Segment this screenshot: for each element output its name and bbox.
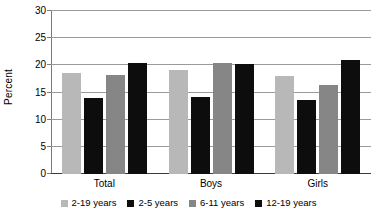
x-axis-category-labels: TotalBoysGirls [51,176,371,192]
bar [275,76,294,174]
bar [235,64,254,174]
bar [128,63,147,174]
legend-swatch-icon [189,200,196,207]
chart-legend: 2-19 years2-5 years6-11 years12-19 years [0,195,377,211]
y-axis-tick-label: 30 [2,10,46,11]
bar-group [158,11,265,174]
legend-item[interactable]: 12-19 years [255,197,316,209]
y-axis-tick-label: 10 [2,119,46,120]
legend-item[interactable]: 2-19 years [61,197,117,209]
bar [191,97,210,174]
legend-swatch-icon [255,200,262,207]
x-axis-category-label: Girls [264,176,371,192]
bar [62,73,81,174]
x-axis-category-label: Total [51,176,158,192]
bar-chart: Percent 051015202530 TotalBoysGirls 2-19… [0,0,377,215]
y-axis-tick-label: 5 [2,146,46,147]
bar [297,100,316,174]
bar [341,60,360,174]
x-axis-category-label: Boys [158,176,265,192]
legend-label: 12-19 years [266,197,316,209]
y-axis-tick-label: 0 [2,173,46,174]
legend-label: 2-19 years [72,197,117,209]
bar [84,98,103,174]
legend-item[interactable]: 6-11 years [189,197,244,209]
bar [213,63,232,174]
y-axis-tick-label: 15 [2,92,46,93]
legend-swatch-icon [61,200,68,207]
bar [319,85,338,174]
plot-area: 051015202530 [51,11,371,174]
legend-label: 6-11 years [200,197,244,209]
y-axis-title: Percent [2,0,16,174]
legend-label: 2-5 years [138,197,178,209]
bar-groups [51,11,371,174]
bar [169,70,188,174]
bar-group [51,11,158,174]
legend-swatch-icon [127,200,134,207]
bar [106,75,125,174]
y-axis-tick-label: 25 [2,37,46,38]
y-axis-tick-label: 20 [2,64,46,65]
legend-item[interactable]: 2-5 years [127,197,178,209]
bar-group [264,11,371,174]
